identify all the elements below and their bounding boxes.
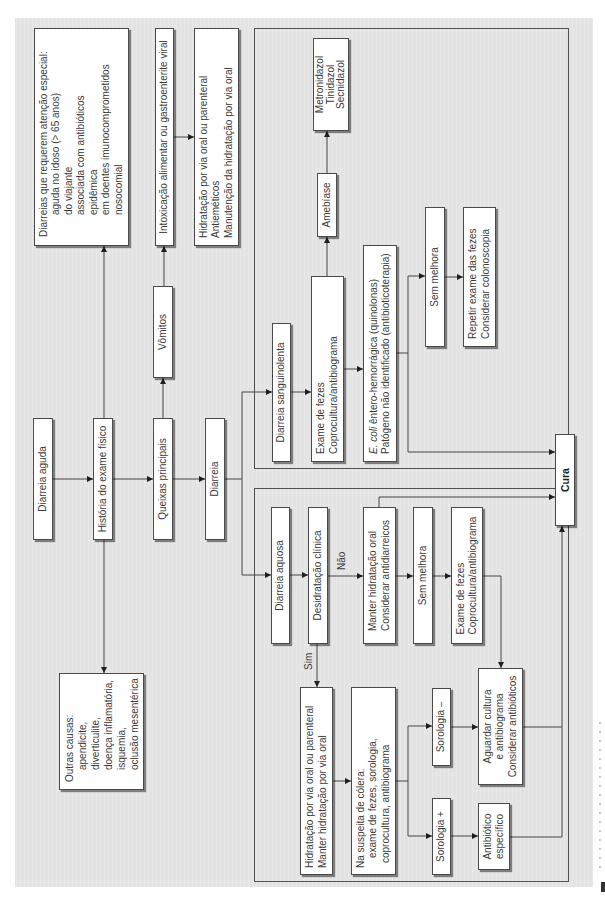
- node-suspeita-colera: Na suspeita de cólera: exame de fezes, s…: [351, 687, 396, 875]
- node-line: Manutenção da hidratação por via oral: [223, 67, 236, 238]
- node-list-item: nosocomial: [113, 51, 126, 237]
- node-label: Desidratação clínica: [312, 530, 325, 620]
- node-line: Antibiótico: [482, 813, 495, 859]
- node-amebiase: Amebíase: [317, 173, 337, 237]
- node-label: Sorologia –: [435, 702, 448, 753]
- node-sorologia-positiva: Sorologia +: [432, 798, 451, 875]
- edge-label-nao: Não: [336, 552, 348, 570]
- edge-label-sim: Sim: [303, 653, 315, 670]
- node-ecoli: E. coli êntero-hemorrágica (quinolonas) …: [363, 245, 397, 462]
- node-intoxicacao: Intoxicação alimentar ou gastroenterite …: [155, 28, 174, 246]
- node-line: Hidratação por via oral ou parenteral: [198, 67, 211, 238]
- node-diarreias-especiais: Diarreias que requerem atenção especial:…: [34, 28, 129, 246]
- node-label: Diarreia sanguinolenta: [275, 342, 288, 442]
- node-list-item: doença inflamatória,: [102, 678, 115, 782]
- caption-mark: [601, 882, 605, 892]
- node-line: Manter hidratação por via oral: [317, 706, 330, 868]
- node-line: e antibiograma: [494, 676, 507, 778]
- ecoli-rest-label: êntero-hemorrágica (quinolonas): [368, 279, 379, 427]
- node-historia: História do exame físico: [93, 418, 113, 540]
- node-line: Exame de fezes: [455, 517, 468, 635]
- node-line: Considerar antibióticos: [507, 676, 520, 778]
- ecoli-italic-label: E. coli: [368, 427, 379, 454]
- node-list-item: apendicite,: [76, 678, 89, 782]
- node-aguardar-cultura: Aguardar cultura e antibiograma Consider…: [478, 668, 523, 785]
- node-list-item: do viajante: [63, 51, 76, 237]
- node-line: específico: [494, 813, 507, 859]
- node-line: Repetir exame das fezes: [467, 228, 480, 339]
- node-label: Cura: [559, 468, 572, 492]
- node-list-item: associada com antibióticos: [75, 51, 88, 237]
- node-repetir-exame: Repetir exame das fezes Considerar colon…: [463, 207, 496, 347]
- node-exame-fezes-sanguinolenta: Exame de fezes Coprocultura/antibiograma: [311, 276, 344, 462]
- node-label: História do exame físico: [97, 426, 110, 533]
- node-diarreia-sanguinolenta: Diarreia sanguinolenta: [272, 323, 291, 462]
- node-list-item: diverticulite,: [89, 678, 102, 782]
- node-line: exame de fezes, sorologia,: [367, 738, 380, 868]
- node-line: Aguardar cultura: [482, 676, 495, 778]
- node-line: E. coli êntero-hemorrágica (quinolonas): [368, 253, 381, 454]
- node-list-item: aguda no idoso (> 65 anos): [50, 51, 63, 237]
- arrow-exame-to-aguardar: [483, 576, 501, 668]
- node-label: Vômitos: [157, 314, 170, 350]
- node-antibiotico-especifico: Antibiótico específico: [478, 803, 510, 870]
- node-sem-melhora-aquosa: Sem melhora: [413, 507, 433, 644]
- node-list-item: em doentes imunocomprometidos: [100, 51, 113, 237]
- node-list-item: epidêmica: [88, 51, 101, 237]
- caption-fragment: [599, 718, 601, 868]
- node-hidratacao-colera: Hidratação por via oral ou parenteral Ma…: [300, 687, 333, 875]
- node-label: Sem melhora: [417, 546, 430, 605]
- node-line: Exame de fezes: [315, 336, 328, 454]
- node-hidratacao-vomitos: Hidratação por via oral ou parenteral An…: [194, 28, 239, 246]
- node-queixas-principais: Queixas principais: [153, 418, 173, 540]
- node-desidratacao-clinica: Desidratação clínica: [308, 507, 328, 644]
- node-label: Amebíase: [321, 182, 334, 227]
- node-label: Diarreia aguda: [37, 446, 50, 512]
- node-exame-fezes-aquosa: Exame de fezes Coprocultura/antibiograma: [451, 507, 483, 644]
- arrow-manter-to-cura: [379, 497, 555, 507]
- node-list-item: isquemia,: [115, 678, 128, 782]
- node-diarreia-aguda: Diarreia aguda: [33, 418, 53, 540]
- node-label: Diarreia: [209, 462, 222, 497]
- node-heading: Outras causas:: [63, 678, 76, 782]
- node-vomitos: Vômitos: [153, 286, 173, 378]
- node-manter-hidratacao: Manter hidratação oral Considerar antidi…: [363, 507, 396, 644]
- node-line: Considerar colonoscopia: [480, 228, 493, 339]
- node-line: Antieméticos: [210, 67, 223, 238]
- node-heading: Na suspeita de cólera:: [355, 738, 368, 868]
- drug-name: Secnidazol: [336, 56, 347, 113]
- node-label: Sorologia +: [435, 811, 448, 862]
- node-heading: Diarreias que requerem atenção especial:: [38, 51, 51, 237]
- node-sorologia-negativa: Sorologia –: [432, 688, 451, 766]
- node-line: Coprocultura/antibiograma: [467, 517, 480, 635]
- node-diarreia: Diarreia: [205, 418, 225, 540]
- node-cura: Cura: [555, 434, 575, 526]
- node-label: Diarreia aquosa: [274, 540, 287, 611]
- node-diarreia-aquosa: Diarreia aquosa: [271, 507, 290, 644]
- node-line: Patógeno não identificado (antibioticote…: [380, 253, 393, 454]
- node-list-item: oclusão mesentérica: [128, 678, 141, 782]
- node-line: coprocultura, antibiograma: [380, 738, 393, 868]
- node-line: Manter hidratação oral: [367, 520, 380, 631]
- node-line: Considerar antidiarreicos: [380, 520, 393, 631]
- flowchart-diarreia-aguda: Diarreia aguda História do exame físico …: [0, 0, 605, 904]
- node-metronidazol: Metronidazol Tinidazol Secnidazol: [313, 38, 349, 131]
- node-label: Queixas principais: [157, 438, 170, 520]
- node-outras-causas: Outras causas: apendicite, diverticulite…: [59, 673, 144, 790]
- node-line: Hidratação por via oral ou parenteral: [304, 706, 317, 868]
- node-sem-melhora-sanguinolenta: Sem melhora: [425, 207, 445, 347]
- node-label: Intoxicação alimentar ou gastroenterite …: [158, 40, 171, 233]
- node-line: Coprocultura/antibiograma: [328, 336, 341, 454]
- node-label: Sem melhora: [429, 247, 442, 306]
